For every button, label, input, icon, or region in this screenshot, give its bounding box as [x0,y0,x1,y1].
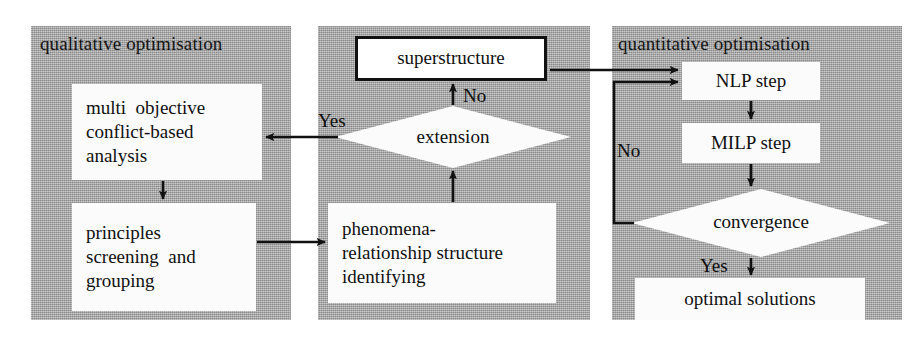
node-line: identifying [342,265,556,289]
node-convergence-decision[interactable]: convergence [632,189,890,257]
node-extension-label: extension [335,126,571,148]
node-line: conflict-based [86,120,262,144]
node-extension-decision[interactable]: extension [335,106,571,168]
edge-label-yes-convergence: Yes [700,255,728,277]
node-line: phenomena- [342,217,556,241]
node-line: relationship structure [342,241,556,265]
node-convergence-label: convergence [632,211,890,233]
flowchart-canvas: qualitative optimisation quantitative op… [0,0,922,338]
node-milp-step[interactable]: MILP step [682,123,820,163]
node-line: optimal solutions [684,287,815,311]
node-optimal-solutions[interactable]: optimal solutions [635,278,865,320]
node-line: multi objective [86,96,262,120]
panel-title-qualitative: qualitative optimisation [40,33,222,55]
panel-title-quantitative: quantitative optimisation [618,33,810,55]
node-line: MILP step [711,131,791,155]
node-nlp-step[interactable]: NLP step [682,62,820,100]
node-line: analysis [86,144,262,168]
node-line: principles [86,221,256,245]
edge-label-yes-extension: Yes [318,110,346,132]
node-line: screening and [86,245,256,269]
node-phenomena-relationship[interactable]: phenomena- relationship structure identi… [328,203,556,303]
node-principles-screening[interactable]: principles screening and grouping [72,203,256,311]
node-superstructure[interactable]: superstructure [355,36,547,81]
node-line: grouping [86,269,256,293]
edge-label-no-convergence: No [617,140,640,162]
node-line: superstructure [397,46,505,70]
node-line: NLP step [716,69,787,93]
edge-label-no-extension: No [463,85,486,107]
node-multi-objective-analysis[interactable]: multi objective conflict-based analysis [72,84,262,180]
